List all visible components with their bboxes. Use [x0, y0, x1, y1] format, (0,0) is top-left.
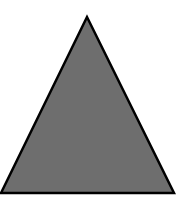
triangle-figure [0, 0, 187, 205]
diagram-canvas [0, 0, 187, 205]
triangle-shape [1, 17, 174, 193]
